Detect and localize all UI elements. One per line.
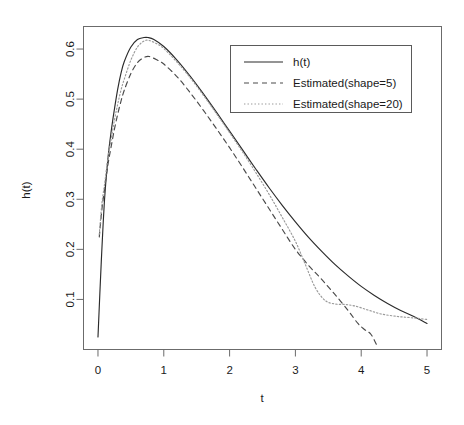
legend-label-2: Estimated(shape=5) <box>293 77 396 89</box>
y-axis-tick-labels: 0.10.20.30.40.50.6 <box>65 41 77 307</box>
x-tick-label: 2 <box>226 364 232 376</box>
y-tick-label: 0.1 <box>65 291 77 307</box>
y-tick-label: 0.6 <box>65 41 77 57</box>
y-axis-title: h(t) <box>20 181 32 198</box>
x-tick-label: 4 <box>358 364 365 376</box>
y-axis-ticks <box>77 49 84 299</box>
x-tick-label: 1 <box>161 364 167 376</box>
y-tick-label: 0.2 <box>65 241 77 257</box>
x-tick-label: 3 <box>292 364 298 376</box>
y-tick-label: 0.4 <box>65 141 77 158</box>
legend-label-3: Estimated(shape=20) <box>293 98 403 110</box>
chart-figure: 012345 0.10.20.30.40.50.6 t h(t) h(t)Est… <box>0 0 464 425</box>
x-tick-label: 0 <box>95 364 101 376</box>
x-axis-tick-labels: 012345 <box>95 364 430 376</box>
plot-canvas: 012345 0.10.20.30.40.50.6 t h(t) h(t)Est… <box>0 0 464 425</box>
x-axis-ticks <box>98 350 427 357</box>
y-tick-label: 0.3 <box>65 191 77 207</box>
y-tick-label: 0.5 <box>65 91 77 107</box>
legend: h(t)Estimated(shape=5)Estimated(shape=20… <box>231 46 412 113</box>
x-axis-title: t <box>260 392 264 404</box>
legend-label-1: h(t) <box>293 56 310 68</box>
x-tick-label: 5 <box>424 364 430 376</box>
